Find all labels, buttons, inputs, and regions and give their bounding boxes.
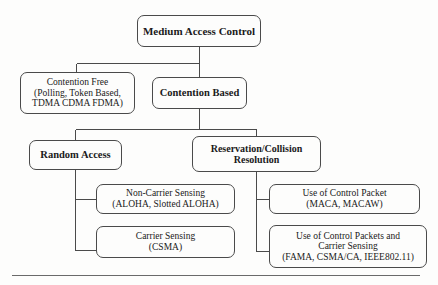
node-label-use-of-control-packet: Use of Control Packet (MACA, MACAW) (274, 188, 415, 209)
node-line: Carrier Sensing (274, 241, 422, 252)
node-label-reservation-collision-resolution: Reservation/Collision Resolution (197, 143, 316, 165)
node-contention-free: Contention Free (Polling, Token Based, T… (20, 72, 135, 114)
diagram-canvas: Medium Access Control Contention Free (P… (0, 0, 438, 285)
node-use-of-control-packets-and-carrier-sensing: Use of Control Packets and Carrier Sensi… (269, 225, 427, 268)
node-contention-based: Contention Based (152, 77, 247, 109)
node-use-of-control-packet: Use of Control Packet (MACA, MACAW) (269, 184, 420, 214)
node-line: Random Access (34, 149, 117, 161)
node-label-use-of-control-packets-and-carrier-sensing: Use of Control Packets and Carrier Sensi… (274, 231, 422, 263)
node-line: Use of Control Packets and (274, 231, 422, 242)
node-line: TDMA CDMA FDMA) (25, 98, 130, 109)
node-random-access: Random Access (29, 140, 122, 170)
node-non-carrier-sensing: Non-Carrier Sensing (ALOHA, Slotted ALOH… (96, 184, 235, 214)
node-line: Resolution (197, 154, 316, 165)
node-line: (FAMA, CSMA/CA, IEEE802.11) (274, 252, 422, 263)
node-line: (Polling, Token Based, (25, 88, 130, 99)
node-line: Contention Free (25, 77, 130, 88)
node-label-random-access: Random Access (34, 149, 117, 161)
node-label-contention-based: Contention Based (157, 87, 242, 99)
node-line: Non-Carrier Sensing (101, 188, 230, 199)
page-divider-rule (12, 275, 420, 276)
node-carrier-sensing: Carrier Sensing (CSMA) (96, 226, 235, 258)
node-label-non-carrier-sensing: Non-Carrier Sensing (ALOHA, Slotted ALOH… (101, 188, 230, 209)
node-line: (ALOHA, Slotted ALOHA) (101, 199, 230, 210)
node-medium-access-control: Medium Access Control (137, 15, 261, 47)
node-line: (CSMA) (101, 242, 230, 253)
node-label-carrier-sensing: Carrier Sensing (CSMA) (101, 231, 230, 252)
node-line: Contention Based (157, 87, 242, 99)
node-line: Carrier Sensing (101, 231, 230, 242)
node-reservation-collision-resolution: Reservation/Collision Resolution (192, 136, 321, 172)
node-label-contention-free: Contention Free (Polling, Token Based, T… (25, 77, 130, 109)
node-line: Use of Control Packet (274, 188, 415, 199)
node-label-medium-access-control: Medium Access Control (142, 25, 256, 37)
node-line: Reservation/Collision (197, 143, 316, 154)
node-line: (MACA, MACAW) (274, 199, 415, 210)
node-line: Medium Access Control (142, 25, 256, 37)
